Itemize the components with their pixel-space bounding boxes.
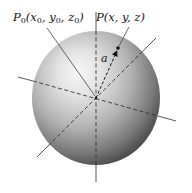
p0-subscript: 0	[21, 16, 26, 25]
p0-symbol: P	[13, 10, 21, 24]
p0-arg-z-sub: 0	[74, 16, 79, 25]
p-arg-y: y	[122, 10, 127, 24]
point-p	[116, 46, 120, 50]
radius-label: a	[101, 53, 108, 64]
surface-point-label: P(x, y, z)	[96, 12, 145, 24]
p0-arg-x-sub: 0	[37, 16, 42, 25]
sphere-figure: P0(x0, y0, z0) P(x, y, z) a	[0, 0, 192, 193]
center-point-p0	[95, 97, 97, 99]
p0-arg-y-sub: 0	[56, 16, 61, 25]
sphere-diagram-svg	[0, 0, 192, 193]
p-symbol: P	[96, 10, 104, 24]
p-arg-z: z	[134, 10, 140, 24]
p-arg-x: x	[108, 10, 115, 24]
center-point-label: P0(x0, y0, z0)	[13, 12, 84, 25]
